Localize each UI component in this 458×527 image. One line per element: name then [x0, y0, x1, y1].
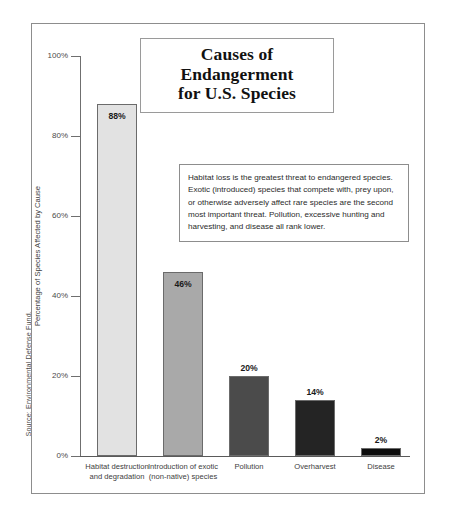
annotation-textbox: Habitat loss is the greatest threat to e…: [179, 164, 409, 242]
y-axis-tick-label: 80%: [52, 131, 68, 140]
bar-group: 46%Introduction of exotic(non-native) sp…: [163, 56, 203, 456]
bar-group: 2%Disease: [361, 56, 401, 456]
bar-group: 20%Pollution: [229, 56, 269, 456]
bar[interactable]: [229, 376, 269, 456]
bar-value-label: 14%: [295, 387, 335, 397]
category-label-line-2: (non-native) species: [135, 472, 231, 482]
bar-value-label: 20%: [229, 363, 269, 373]
y-axis-tick: 100%: [71, 56, 80, 57]
y-axis-tick-label: 100%: [48, 51, 68, 60]
figure-frame: Causes of Endangerment for U.S. Species …: [31, 23, 425, 494]
x-axis-line: [80, 456, 410, 457]
bar[interactable]: 88%: [97, 104, 137, 456]
bar-value-label: 88%: [98, 111, 136, 121]
y-axis-line: [80, 56, 81, 456]
y-axis-tick-label: 0%: [56, 451, 68, 460]
y-axis-tick-label: 40%: [52, 291, 68, 300]
y-axis-tick: 20%: [71, 376, 80, 377]
bar-value-label: 2%: [361, 435, 401, 445]
bar[interactable]: [295, 400, 335, 456]
y-axis-tick: 40%: [71, 296, 80, 297]
y-axis-tick: 60%: [71, 216, 80, 217]
bar[interactable]: 46%: [163, 272, 203, 456]
y-axis-tick: 80%: [71, 136, 80, 137]
category-label-line-1: Disease: [367, 462, 394, 471]
y-axis-title: Percentage of Species Affected by Cause: [33, 146, 42, 366]
chart-page: Source: Environmental Defense Fund. Caus…: [0, 0, 458, 527]
category-label-line-1: Pollution: [234, 462, 263, 471]
bar-group: 88%Habitat destructionand degradation: [97, 56, 137, 456]
bar-value-label: 46%: [164, 279, 202, 289]
y-axis-tick: 0%: [71, 456, 80, 457]
x-axis-category-label: Disease: [333, 462, 429, 472]
y-axis-tick-label: 20%: [52, 371, 68, 380]
bar[interactable]: [361, 448, 401, 456]
plot-area: Percentage of Species Affected by Cause …: [80, 56, 410, 456]
category-label-line-1: Overharvest: [294, 462, 335, 471]
y-axis-tick-label: 60%: [52, 211, 68, 220]
bar-group: 14%Overharvest: [295, 56, 335, 456]
